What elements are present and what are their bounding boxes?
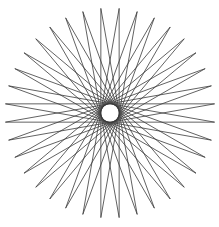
string-art-star-icon: [0, 0, 219, 227]
star-chords: [5, 8, 214, 217]
star-polygon-figure: [0, 0, 219, 227]
